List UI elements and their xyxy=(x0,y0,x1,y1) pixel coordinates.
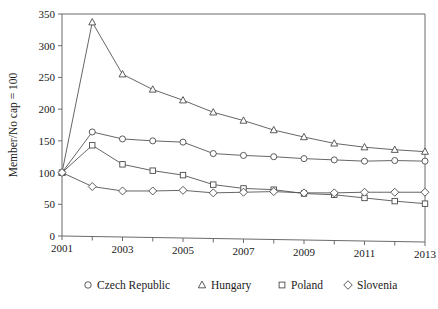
y-tick-label-50: 50 xyxy=(44,198,56,210)
datapoint-czech-republic-2011 xyxy=(361,158,367,164)
datapoint-czech-republic-2004 xyxy=(150,138,156,144)
x-tick-label-2007: 2007 xyxy=(233,245,256,257)
series-line-1 xyxy=(62,22,425,172)
datapoint-poland-2002 xyxy=(90,143,95,148)
datapoint-slovenia-2012 xyxy=(391,188,399,196)
y-tick-label-150: 150 xyxy=(39,135,56,147)
y-tick-label-300: 300 xyxy=(39,40,56,52)
chart-legend: Czech RepublicHungaryPolandSlovenia xyxy=(85,279,397,292)
datapoint-slovenia-2003 xyxy=(119,187,127,195)
x-tick-label-2001: 2001 xyxy=(51,242,73,254)
datapoint-czech-republic-2012 xyxy=(392,157,398,163)
datapoint-slovenia-2004 xyxy=(149,187,157,195)
legend-item-hungary[interactable]: Hungary xyxy=(198,279,251,292)
y-tick-label-100: 100 xyxy=(39,167,56,179)
datapoint-czech-republic-2002 xyxy=(89,129,95,135)
legend-label-3: Slovenia xyxy=(357,279,397,291)
legend-item-slovenia[interactable]: Slovenia xyxy=(344,279,398,291)
x-tick-label-2013: 2013 xyxy=(414,248,437,260)
datapoint-czech-republic-2009 xyxy=(301,156,307,162)
x-tick-label-2009: 2009 xyxy=(293,246,316,258)
datapoint-czech-republic-2010 xyxy=(331,157,337,163)
y-tick-label-0: 0 xyxy=(50,230,56,242)
y-axis-label: Member/No cap = 100 xyxy=(7,72,20,177)
legend-label-0: Czech Republic xyxy=(97,279,170,292)
legend-marker-triangle-icon xyxy=(198,281,205,288)
legend-marker-circle-icon xyxy=(85,282,91,288)
datapoint-czech-republic-2006 xyxy=(210,151,216,157)
legend-label-1: Hungary xyxy=(211,279,251,292)
series-slovenia xyxy=(58,169,429,197)
datapoint-slovenia-2005 xyxy=(179,186,187,194)
plot-axes xyxy=(58,14,425,246)
line-chart-canvas: Member/No cap = 100 05010015020025030035… xyxy=(0,0,438,309)
data-series-group xyxy=(58,19,429,207)
datapoint-hungary-2004 xyxy=(149,86,156,92)
datapoint-poland-2005 xyxy=(180,172,185,177)
datapoint-czech-republic-2008 xyxy=(271,154,277,160)
y-tick-label-200: 200 xyxy=(39,103,56,115)
y-axis-title: Member/No cap = 100 xyxy=(7,72,20,177)
datapoint-czech-republic-2005 xyxy=(180,139,186,145)
x-axis-tick-labels: 2001200320052007200920112013 xyxy=(51,242,437,260)
datapoint-slovenia-2006 xyxy=(209,189,217,197)
datapoint-hungary-2003 xyxy=(119,71,126,77)
datapoint-hungary-2002 xyxy=(89,19,96,25)
datapoint-czech-republic-2003 xyxy=(119,136,125,142)
x-tick-label-2003: 2003 xyxy=(112,243,135,255)
x-tick-label-2005: 2005 xyxy=(172,244,195,256)
y-axis-tick-labels: 050100150200250300350 xyxy=(39,8,56,242)
datapoint-poland-2004 xyxy=(150,168,155,173)
legend-item-poland[interactable]: Poland xyxy=(279,279,323,291)
y-tick-label-350: 350 xyxy=(39,8,56,20)
series-hungary xyxy=(59,19,429,176)
datapoint-poland-2006 xyxy=(211,182,216,187)
datapoint-slovenia-2002 xyxy=(88,183,96,191)
datapoint-czech-republic-2013 xyxy=(422,158,428,164)
y-tick-label-250: 250 xyxy=(39,71,56,83)
datapoint-poland-2013 xyxy=(422,201,427,206)
legend-marker-diamond-icon xyxy=(344,281,353,290)
chart-figure: Member/No cap = 100 05010015020025030035… xyxy=(0,0,438,309)
datapoint-slovenia-2013 xyxy=(421,188,429,196)
datapoint-poland-2012 xyxy=(392,198,397,203)
legend-item-czech-republic[interactable]: Czech Republic xyxy=(85,279,170,292)
legend-marker-square-icon xyxy=(279,282,285,288)
series-czech-republic xyxy=(59,129,428,176)
datapoint-poland-2003 xyxy=(120,162,125,167)
x-tick-label-2011: 2011 xyxy=(354,247,376,259)
datapoint-czech-republic-2007 xyxy=(240,152,246,158)
legend-label-2: Poland xyxy=(291,279,323,291)
